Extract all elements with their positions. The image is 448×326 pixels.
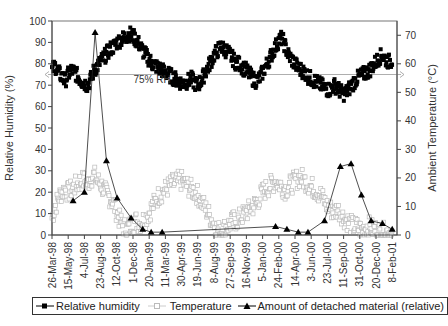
- hollow-square-marker-icon: [146, 302, 168, 310]
- svg-text:5-Jan-00: 5-Jan-00: [257, 242, 268, 282]
- svg-text:40: 40: [405, 115, 417, 126]
- svg-text:10: 10: [405, 201, 417, 212]
- svg-text:20-Dec-00: 20-Dec-00: [371, 242, 382, 289]
- legend: Relative humidity Temperature Amount of …: [32, 297, 448, 315]
- svg-text:26-Mar-98: 26-Mar-98: [47, 242, 58, 289]
- svg-text:30-Apr-99: 30-Apr-99: [176, 242, 187, 287]
- svg-text:31-Oct-00: 31-Oct-00: [354, 242, 365, 287]
- svg-text:4-Jul-98: 4-Jul-98: [79, 242, 90, 279]
- svg-text:40: 40: [35, 144, 47, 155]
- svg-text:27-Sep-99: 27-Sep-99: [225, 242, 236, 289]
- svg-text:23-Aug-98: 23-Aug-98: [95, 242, 106, 289]
- svg-text:60: 60: [405, 58, 417, 69]
- svg-text:11-Mar-99: 11-Mar-99: [160, 242, 171, 288]
- svg-text:90: 90: [35, 37, 47, 48]
- threshold-annotation: 75% RH: [133, 74, 170, 85]
- svg-text:24-Feb-00: 24-Feb-00: [273, 242, 284, 289]
- legend-item-temperature: Temperature: [146, 300, 232, 312]
- svg-text:8-Aug-99: 8-Aug-99: [209, 242, 220, 284]
- right-y-axis: 010203040506070: [397, 21, 417, 241]
- x-axis: 26-Mar-9815-May-984-Jul-9823-Aug-9812-Oc…: [47, 235, 398, 290]
- svg-text:16-Nov-99: 16-Nov-99: [241, 242, 252, 289]
- svg-text:80: 80: [35, 58, 47, 69]
- svg-text:8-Feb-01: 8-Feb-01: [387, 242, 398, 283]
- right-axis-label: Ambient Temperature (°C): [426, 64, 438, 192]
- relative-humidity-series: [50, 26, 394, 103]
- legend-label: Temperature: [170, 300, 232, 312]
- svg-text:70: 70: [35, 80, 47, 91]
- left-axis-label: Relative Humidity (%): [3, 75, 15, 181]
- legend-item-relative-humidity: Relative humidity: [36, 300, 140, 312]
- svg-text:23-Jul-00: 23-Jul-00: [322, 242, 333, 284]
- svg-text:15-May-98: 15-May-98: [63, 242, 74, 290]
- svg-text:20: 20: [405, 172, 417, 183]
- svg-text:0: 0: [40, 230, 46, 241]
- svg-text:70: 70: [405, 30, 417, 41]
- left-y-axis: 0102030405060708090100: [29, 16, 52, 241]
- temperature-series: [50, 165, 394, 237]
- svg-text:10: 10: [35, 208, 47, 219]
- svg-text:3-Jun-00: 3-Jun-00: [306, 242, 317, 282]
- legend-item-detached-material: Amount of detached material (relative): [238, 300, 444, 312]
- legend-label: Amount of detached material (relative): [258, 300, 444, 312]
- svg-text:60: 60: [35, 101, 47, 112]
- svg-text:0: 0: [405, 230, 411, 241]
- svg-text:20: 20: [35, 187, 47, 198]
- svg-text:12-Oct-98: 12-Oct-98: [111, 242, 122, 287]
- filled-square-marker-icon: [36, 302, 54, 310]
- svg-text:50: 50: [35, 123, 47, 134]
- svg-text:19-Jun-99: 19-Jun-99: [192, 242, 203, 287]
- svg-text:30: 30: [35, 165, 47, 176]
- svg-text:30: 30: [405, 144, 417, 155]
- svg-text:50: 50: [405, 87, 417, 98]
- svg-text:14-Apr-00: 14-Apr-00: [290, 242, 301, 287]
- svg-text:11-Sep-00: 11-Sep-00: [338, 242, 349, 288]
- filled-triangle-marker-icon: [238, 302, 256, 310]
- legend-label: Relative humidity: [56, 300, 140, 312]
- svg-text:1-Dec-98: 1-Dec-98: [128, 242, 139, 284]
- svg-text:100: 100: [29, 16, 46, 27]
- svg-text:20-Jan-99: 20-Jan-99: [144, 242, 155, 287]
